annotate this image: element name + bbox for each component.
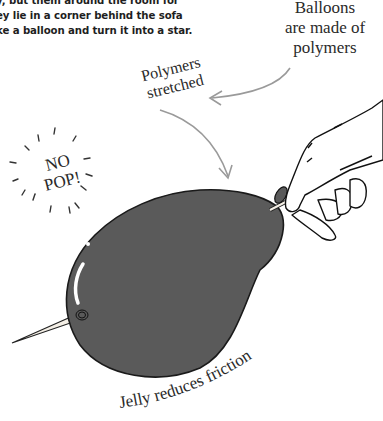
balloon-illustration: Jelly reduces friction <box>0 0 383 421</box>
balloon-icon <box>66 190 283 377</box>
burst-lines-icon <box>10 128 92 213</box>
hand-icon <box>285 100 383 240</box>
arrow-icon <box>160 110 232 178</box>
arrow-icon <box>210 68 290 105</box>
